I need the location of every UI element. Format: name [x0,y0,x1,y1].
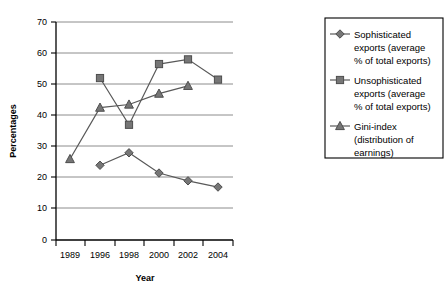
y-tick-label: 50 [37,79,47,89]
y-tick-label: 30 [37,141,47,151]
data-point-square [96,74,103,81]
legend-marker-square-icon [336,76,343,83]
legend-label-line: Sophisticated [354,29,411,40]
data-point-square [214,76,221,83]
x-axis-title: Year [135,273,155,283]
legend-label-line: earnings) [354,147,394,158]
x-tick-label: 1998 [119,250,139,260]
legend-label-line: % of total exports) [354,101,431,112]
legend-label-line: exports (average [354,88,425,99]
legend-label-line: (distribution of [354,134,414,145]
y-tick-label: 70 [37,17,47,27]
legend-label-line: Unsophisticated [354,75,422,86]
x-tick-label: 2000 [149,250,169,260]
legend-label-line: exports (average [354,42,425,53]
y-tick-label: 0 [42,235,47,245]
legend-label-line: Gini-index [354,121,397,132]
data-point-square [155,60,162,67]
x-tick-label: 1996 [90,250,110,260]
y-tick-label: 60 [37,48,47,58]
x-tick-label: 2002 [178,250,198,260]
line-chart-figure: 70 60 50 40 30 20 10 0 Percentages 1989 … [0,0,448,297]
x-tick-label: 2004 [208,250,228,260]
data-point-square [184,56,191,63]
legend-label-line: % of total exports) [354,55,431,66]
legend: Sophisticatedexports (average% of total … [325,18,443,158]
y-tick-label: 10 [37,203,47,213]
x-tick-label: 1989 [60,250,80,260]
y-tick-label: 40 [37,110,47,120]
y-tick-label: 20 [37,172,47,182]
data-point-square [125,121,132,128]
y-axis-title: Percentages [8,104,18,158]
